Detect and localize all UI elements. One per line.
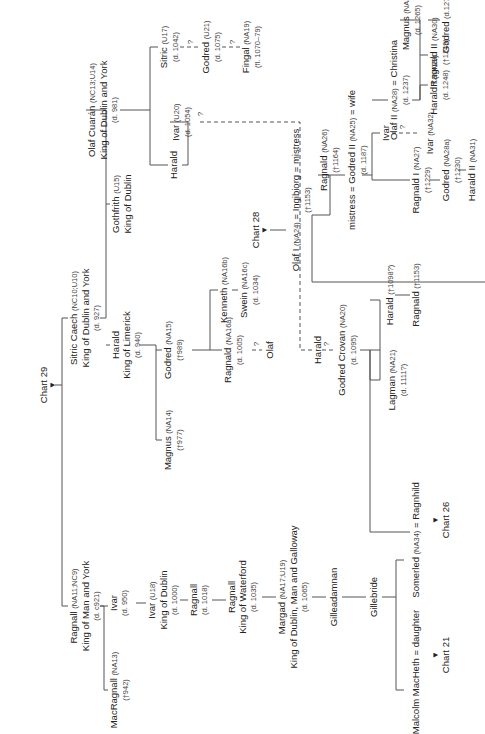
person-ivar-u18: Ivar (U18) King of Dublin (d. 1000) [146,570,180,629]
person-ragnald-1153: Ragnald (†1153) [410,263,422,326]
arrow-down-icon: ▼ [432,502,440,538]
person-ragnall-na11: Ragnall (NA11;NC9) King of Man and York … [68,561,102,651]
person-godred-crovan: Godred Crovan (NA20) (d. 1095) [336,304,359,395]
person-magnus-na14: Magnus (NA14) (†977) [162,410,185,470]
person-gilleadamnan: Gilleadamnan [328,568,339,627]
uncertain-mark: ? [186,40,195,44]
arrow-down-icon: ▼ [261,212,269,248]
chart-28-ref[interactable]: Chart 28 ▼ [250,212,269,248]
person-godred-na15: Godred (NA15) (†989) [162,321,185,379]
person-olaf: Olaf [264,341,275,358]
uncertain-mark: ? [322,342,331,346]
chart-21-label: Chart 21 [440,637,451,673]
chart-26-label: Chart 26 [440,502,451,538]
chart-29-ref[interactable]: Chart 29 ▼ [38,367,57,403]
person-kenneth: Kenneth (NA16b) [218,257,230,323]
person-godred-ii: mistress = Godred II (NA25) = wife (d. 1… [346,90,369,230]
uncertain-mark: ? [196,112,205,116]
person-godred-u21: Godred (U21) (d. 1075) [200,20,223,73]
person-ragnald-na16a: Ragnald (NA16a) (d. 1005) [222,317,245,383]
chart-26-ref[interactable]: ▼ Chart 26 [432,502,451,538]
person-margad: Margad (NA17;U19) King of Dublin, Man an… [276,525,310,668]
person-ragnall-1018: Ragnall (d. 1018) [188,584,210,616]
chart-21-ref[interactable]: ▼ Chart 21 [432,637,451,673]
person-harald-1098: Harald (†1098?) [384,265,396,326]
person-ragnall-waterford: Ragnall King of Waterford (d. 1035) [226,560,259,634]
person-olaf-cuaran: Olaf Cuarán (NC13;U14) King of Dublin an… [86,61,120,160]
person-harald-son: Harald [168,151,179,179]
person-olaf-i: Olaf I (NA24) = Ingibiorg = mistress (†1… [290,129,313,272]
person-ragnald-i: Ragnald I (NA27) (†1229) [410,146,433,213]
person-olaf-ii: Olaf II (NA28) = Christina (d. 1237) [388,40,411,140]
person-gillebride: Gillebride [368,577,379,617]
person-sitric-u17: Sitric (U17) (d. 1042) [158,26,181,69]
person-malcolm-macheth: Malcolm MacHeth = daughter [410,610,421,734]
person-gothfrith: Gothfrith (U15) King of Dublin [110,174,133,233]
person-magnus-na33: Magnus (NA33) (d. 1265) [400,0,423,50]
person-harald-mid: Harald [312,336,323,364]
person-sitric-caech: Sitric Caech (NC10;U10) King of Dublin a… [68,269,102,368]
person-lagman: Lagman (NA21) (d. 1111?) [386,350,409,411]
person-ivar-na32: Ivar (NA32) [424,112,436,154]
uncertain-mark: ? [228,40,237,44]
person-godred-1275: Godred (d.1275?) [440,0,452,53]
person-fingal: Fingal (NA19) (fl. 1070–79) [240,21,263,73]
person-swein: Swein (NA16c) (d. 1034) [238,262,261,318]
person-harald-limerick: Harald King of Limerick (d. 940) [110,311,143,379]
person-ivar-u20: Ivar (U20) (d. 1054) [170,103,193,140]
person-ragnald-na26: Ragnald (NA26) (†1164) [318,129,341,191]
person-harald-ii: Harald II (NA31) [466,139,478,201]
person-ivar-950: Ivar (d. 950) [108,590,130,616]
person-somerled: Somerled (NA34) = Ragnhild [410,482,422,597]
person-godred-na28a: Godred (NA28a) (†1230) [440,139,463,201]
person-macragnall: MacRagnall (NA13) (†942) [108,652,131,729]
arrow-down-icon: ▼ [432,637,440,673]
arrow-down-icon: ▼ [49,367,57,403]
uncertain-mark: ? [252,342,261,346]
